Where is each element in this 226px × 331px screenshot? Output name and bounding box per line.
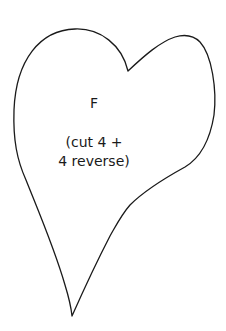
cut-instruction-line-1: (cut 4 +: [44, 133, 144, 152]
pattern-canvas: F (cut 4 + 4 reverse): [0, 0, 226, 331]
cut-instruction-line-2: 4 reverse): [44, 152, 144, 171]
piece-letter-label: F: [74, 95, 114, 111]
cut-instruction: (cut 4 + 4 reverse): [44, 133, 144, 171]
